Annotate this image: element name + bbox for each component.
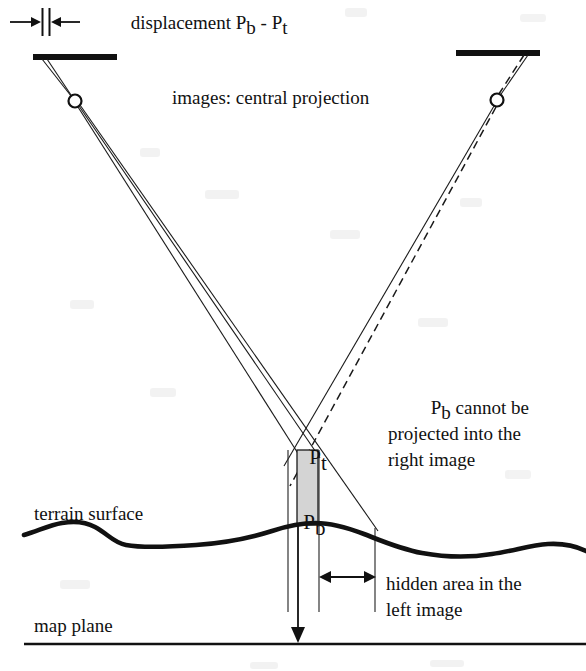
hidden-area-line2: left image xyxy=(386,599,463,620)
pb-base: P xyxy=(303,510,315,534)
central-projection-diagram: displacement Pb - Pt images: central pro… xyxy=(0,0,586,671)
images-caption: images: central projection xyxy=(172,87,370,108)
right-camera xyxy=(456,53,540,107)
displacement-sub-b: b xyxy=(246,17,256,38)
terrain-surface-label: terrain surface xyxy=(34,503,143,524)
pb-sub: b xyxy=(315,516,326,540)
pt-sub: t xyxy=(321,451,327,475)
pb-note: Pb cannot be projected into the right im… xyxy=(388,397,562,470)
svg-text:Pb cannot be: Pb cannot be xyxy=(388,397,562,423)
pb-note-line3: right image xyxy=(388,449,475,470)
pb-note-rest: cannot be xyxy=(451,397,529,418)
left-camera xyxy=(33,57,117,108)
pt-base: P xyxy=(309,445,321,469)
svg-text:Pb: Pb xyxy=(256,510,362,540)
ray-left-to-pt xyxy=(78,107,299,455)
nadir-arrow xyxy=(291,525,305,643)
displacement-middle: - P xyxy=(256,12,282,33)
displacement-label: displacement Pb - Pt xyxy=(88,12,321,38)
hidden-area-arrow xyxy=(319,571,376,583)
hidden-area-label: hidden area in the left image xyxy=(386,573,522,620)
pb-note-sub: b xyxy=(441,402,451,423)
pb-note-p: P xyxy=(431,397,442,418)
svg-text:displacement Pb - Pt: displacement Pb - Pt xyxy=(88,12,321,38)
displacement-prefix: displacement P xyxy=(131,12,247,33)
displacement-sub-t: t xyxy=(282,17,288,38)
hidden-area-line1: hidden area in the xyxy=(386,573,522,594)
diagram-canvas: displacement Pb - Pt images: central pro… xyxy=(0,0,586,671)
pb-note-line2: projected into the xyxy=(388,423,521,444)
left-projection-center xyxy=(69,95,82,108)
point-pb-label: Pb xyxy=(256,510,362,540)
map-plane-label: map plane xyxy=(34,615,113,636)
ray-left-to-building-top-right xyxy=(79,106,320,458)
right-projection-center xyxy=(491,94,504,107)
displacement-marker xyxy=(10,8,80,36)
